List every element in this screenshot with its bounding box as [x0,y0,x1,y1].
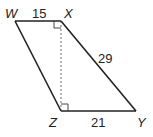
vertex-label-w: W [5,6,19,21]
right-angle-mark-x [54,21,61,28]
length-label-zy: 21 [91,115,105,130]
vertex-label-z: Z [48,115,58,130]
edge-wz [15,21,61,111]
edge-xy [61,21,136,111]
right-angle-mark-z [61,104,68,111]
vertex-label-x: X [63,6,74,21]
trapezoid-diagram: W X Z Y 15 29 21 [0,0,153,137]
vertex-label-y: Y [137,115,147,130]
length-label-xy: 29 [98,51,112,66]
length-label-wx: 15 [32,6,46,21]
